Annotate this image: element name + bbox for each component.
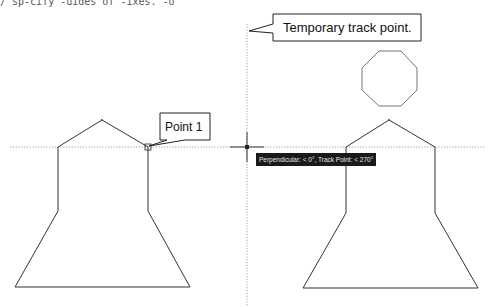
drawing-canvas[interactable]: Temporary track point. Point 1 (0, 0, 492, 307)
right-flask-shape[interactable] (303, 120, 478, 288)
point1-callout: Point 1 (149, 113, 210, 146)
tracking-tooltip: Perpendicular: < 0°, Track Point: < 270° (256, 153, 376, 166)
octagon-shape[interactable] (362, 51, 417, 106)
left-flask-shape[interactable] (15, 120, 190, 287)
point1-callout-text: Point 1 (165, 120, 203, 134)
track-point-callout: Temporary track point. (249, 14, 421, 41)
left-apex-marker (101, 119, 103, 121)
right-apex-marker (388, 119, 390, 121)
track-point-callout-text: Temporary track point. (283, 20, 412, 35)
